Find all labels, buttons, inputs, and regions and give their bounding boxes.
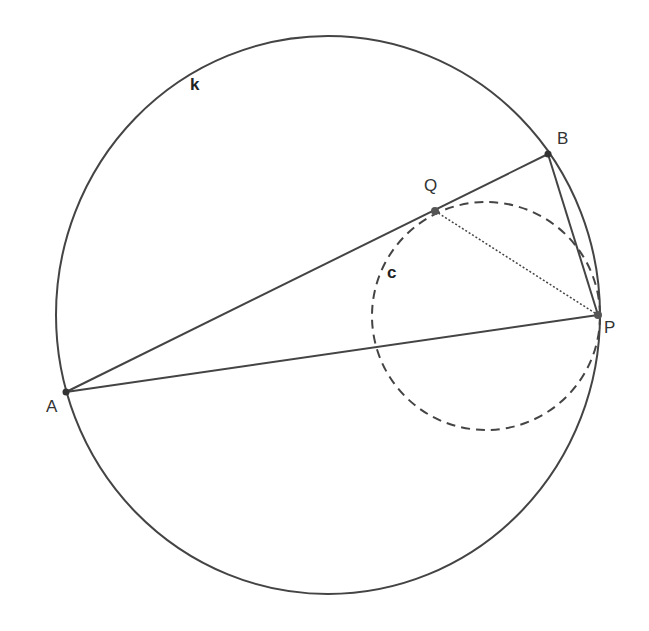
label-q: Q [424,176,437,196]
geometry-diagram [0,0,649,631]
segment-bp [548,154,598,315]
label-c: c [387,263,396,283]
point-a [63,389,70,396]
point-q [431,207,439,215]
point-p [594,311,602,319]
segment-qp [435,211,598,315]
point-b [545,151,552,158]
label-k: k [190,75,199,95]
circle-k [56,36,600,594]
label-a: A [46,397,57,417]
label-b: B [557,129,568,149]
label-p: P [604,318,615,338]
circle-c [372,202,600,430]
